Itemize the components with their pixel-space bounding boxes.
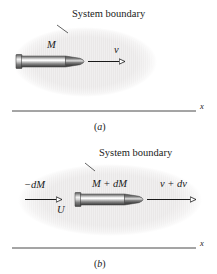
figure-canvas: System boundary M v x (a) [0, 0, 217, 274]
velocity-label-b: v + dv [160, 178, 187, 189]
x-axis-label-a: x [199, 101, 204, 111]
velocity-label-a: v [114, 44, 119, 55]
panel-b-caption: (b) [94, 258, 106, 270]
system-boundary-label-b: System boundary [99, 147, 173, 158]
panel-b: System boundary −dM U M + dM v + dv x (b… [12, 147, 204, 270]
x-axis-label-b: x [199, 238, 204, 248]
mass-label-b: M + dM [91, 178, 128, 189]
rocket-momentum-figure: System boundary M v x (a) [0, 0, 217, 274]
panel-a: System boundary M v x (a) [12, 8, 204, 133]
ejected-mass-label-b: −dM [24, 179, 46, 190]
mass-label-a: M [46, 39, 57, 50]
panel-a-caption: (a) [94, 121, 106, 133]
system-boundary-label-a: System boundary [72, 8, 146, 19]
